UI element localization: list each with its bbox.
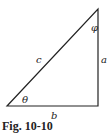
side-a-label: a — [101, 54, 107, 65]
side-c-label: c — [36, 54, 42, 65]
triangle-diagram: φ c a θ b — [0, 0, 109, 138]
figure-caption: Fig. 10-10 — [2, 119, 53, 134]
angle-phi-label: φ — [91, 22, 98, 33]
right-triangle — [7, 9, 98, 106]
angle-theta-label: θ — [22, 94, 28, 105]
